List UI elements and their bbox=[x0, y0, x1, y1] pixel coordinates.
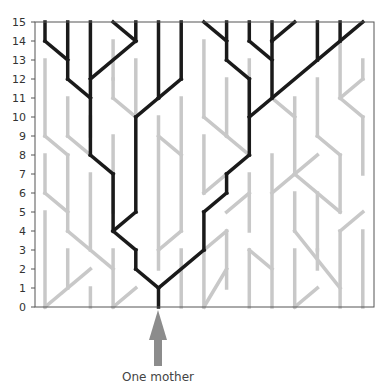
y-tick-label: 7 bbox=[19, 168, 26, 181]
lineage-diagram: 0123456789101112131415 One mother bbox=[0, 0, 389, 387]
branch-segment bbox=[45, 136, 68, 155]
branch-segment bbox=[272, 22, 295, 41]
branch-segment bbox=[295, 155, 318, 174]
branch-segment bbox=[249, 41, 272, 60]
branch-segment bbox=[204, 231, 227, 250]
branch-segment bbox=[45, 41, 68, 60]
y-tick-label: 8 bbox=[19, 149, 26, 162]
y-tick-label: 14 bbox=[12, 35, 26, 48]
branch-segment bbox=[340, 98, 363, 117]
branch-segment bbox=[295, 288, 318, 307]
y-tick-label: 4 bbox=[19, 225, 26, 238]
branch-segment bbox=[249, 250, 272, 269]
y-tick-label: 0 bbox=[19, 301, 26, 314]
y-tick-label: 11 bbox=[12, 92, 26, 105]
y-tick-label: 9 bbox=[19, 130, 26, 143]
y-tick-label: 10 bbox=[12, 111, 26, 124]
one-mother-caption: One mother bbox=[122, 370, 194, 384]
branch-segment bbox=[159, 231, 182, 250]
branch-segment bbox=[45, 193, 68, 212]
branch-segment bbox=[204, 22, 227, 41]
branch-segment bbox=[204, 269, 227, 307]
y-tick-label: 5 bbox=[19, 206, 26, 219]
branch-segment bbox=[227, 60, 250, 79]
branch-segment bbox=[136, 98, 159, 117]
y-tick-label: 3 bbox=[19, 244, 26, 257]
branch-segment bbox=[113, 231, 136, 250]
y-tick-label: 1 bbox=[19, 282, 26, 295]
branch-segment bbox=[159, 136, 182, 155]
branch-segment bbox=[159, 79, 182, 98]
branch-segment bbox=[113, 22, 136, 41]
branch-segment bbox=[272, 98, 295, 117]
branch-segment bbox=[68, 136, 91, 155]
branch-segment bbox=[204, 117, 227, 136]
y-axis-ticks: 0123456789101112131415 bbox=[12, 16, 35, 314]
y-tick-label: 2 bbox=[19, 263, 26, 276]
branch-segment bbox=[317, 136, 340, 155]
branch-segment bbox=[340, 212, 363, 231]
branch-segment bbox=[68, 79, 91, 98]
y-tick-label: 15 bbox=[12, 16, 26, 29]
other-lineages bbox=[45, 41, 363, 307]
branch-segment bbox=[90, 155, 113, 174]
y-tick-label: 13 bbox=[12, 54, 26, 67]
branch-segment bbox=[340, 79, 363, 98]
branch-segment bbox=[272, 174, 295, 193]
branch-segment bbox=[227, 193, 250, 212]
branch-segment bbox=[113, 288, 136, 307]
branch-segment bbox=[227, 136, 250, 155]
y-tick-label: 12 bbox=[12, 73, 26, 86]
branch-segment bbox=[113, 212, 136, 231]
y-tick-label: 6 bbox=[19, 187, 26, 200]
branch-segment bbox=[204, 174, 227, 193]
branch-segment bbox=[136, 269, 159, 288]
arrow-icon bbox=[149, 310, 167, 366]
branch-segment bbox=[227, 155, 250, 174]
branch-segment bbox=[204, 193, 227, 212]
branch-segment bbox=[113, 98, 136, 117]
